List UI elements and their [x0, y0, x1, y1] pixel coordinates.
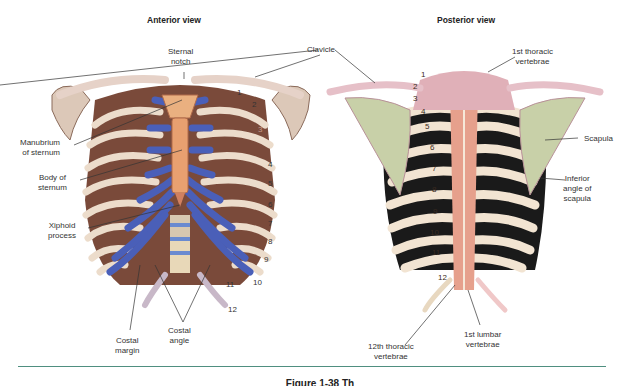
posterior-rib-12: 12	[438, 273, 447, 282]
posterior-rib-2: 2	[413, 82, 417, 91]
anterior-rib-6: 6	[268, 200, 272, 209]
label-manubrium: Manubrium of sternum	[20, 138, 60, 158]
posterior-rib-5: 5	[425, 122, 429, 131]
label-scapula: Scapula	[584, 134, 613, 144]
anterior-rib-9: 9	[264, 255, 268, 264]
anterior-rib-1: 1	[237, 88, 241, 97]
label-clavicle: Clavicle	[307, 45, 335, 55]
anterior-rib-11: 11	[226, 280, 234, 289]
posterior-rib-1: 1	[421, 70, 425, 79]
posterior-rib-3: 3	[413, 94, 417, 103]
posterior-rib-9: 9	[433, 207, 437, 216]
caption-divider	[18, 366, 606, 367]
label-1st-thoracic-vertebrae: 1st thoracic vertebrae	[512, 47, 553, 67]
posterior-rib-6: 6	[430, 143, 434, 152]
anterior-rib-10: 10	[253, 278, 262, 287]
figure-caption: Figure 1-38 Th	[0, 378, 640, 386]
anterior-rib-2: 2	[252, 100, 256, 109]
posterior-rib-10: 10	[430, 228, 439, 237]
label-costal-margin: Costal margin	[115, 336, 139, 356]
label-sternal-notch: Sternal notch	[168, 47, 193, 67]
label-xiphoid-process: Xiphoid process	[48, 221, 76, 241]
anterior-rib-5: 5	[268, 179, 272, 188]
posterior-rib-7: 7	[432, 164, 436, 173]
label-body-of-sternum: Body of sternum	[38, 173, 67, 193]
posterior-rib-11: 11	[432, 248, 440, 257]
label-costal-angle: Costal angle	[168, 326, 191, 346]
label-1st-lumbar-vertebrae: 1st lumbar vertebrae	[464, 330, 501, 350]
posterior-rib-4: 4	[421, 107, 425, 116]
anterior-rib-3: 3	[258, 125, 262, 134]
anterior-rib-7: 7	[268, 219, 272, 228]
anterior-rib-4: 4	[268, 160, 272, 169]
posterior-rib-8: 8	[432, 185, 436, 194]
anterior-rib-8: 8	[268, 237, 272, 246]
anterior-ribcage	[52, 55, 320, 330]
anterior-rib-12: 12	[228, 305, 237, 314]
label-inferior-angle-of-scapula: Inferior angle of scapula	[563, 174, 591, 204]
label-12th-thoracic-vertebrae: 12th thoracic vertebrae	[368, 342, 414, 362]
